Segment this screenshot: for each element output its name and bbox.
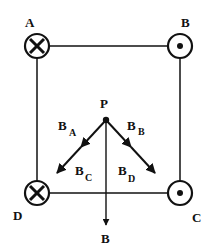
wire-c-label: C <box>192 210 201 225</box>
svg-text:B: B <box>75 163 84 178</box>
svg-text:B: B <box>127 118 136 133</box>
wire-a-label: A <box>25 15 35 30</box>
svg-text:B: B <box>58 118 67 133</box>
wire-c-out-of-page-icon <box>168 181 192 205</box>
label-bc: B C <box>75 163 92 183</box>
svg-text:B: B <box>138 126 145 137</box>
wire-d-label: D <box>13 208 22 223</box>
label-ba: B A <box>58 118 77 138</box>
wire-b-label: B <box>181 15 190 30</box>
label-bb: B B <box>127 118 145 137</box>
diagram-canvas: A B D C P B A B B B C <box>0 0 213 251</box>
svg-text:B: B <box>118 163 127 178</box>
point-p-label: P <box>100 96 108 111</box>
label-bd: B D <box>118 163 135 184</box>
svg-text:A: A <box>69 127 77 138</box>
svg-text:C: C <box>85 172 92 183</box>
wire-b-out-of-page-icon <box>168 34 192 58</box>
svg-text:D: D <box>128 173 135 184</box>
wire-d-into-page-icon <box>25 181 49 205</box>
resultant-b-label: B <box>101 231 110 246</box>
wire-a-into-page-icon <box>25 34 49 58</box>
